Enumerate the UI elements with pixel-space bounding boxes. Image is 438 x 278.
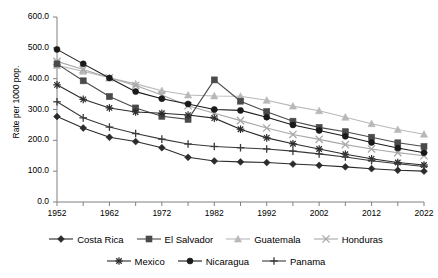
y-tick-label: 100.0 (9, 165, 49, 175)
data-point-square (421, 144, 427, 150)
data-point-plus (132, 130, 140, 138)
data-point-asterisk (53, 81, 61, 89)
data-point-x (263, 124, 270, 131)
data-point-diamond (394, 167, 401, 174)
y-tick-label: 200.0 (9, 134, 49, 144)
data-point-asterisk (263, 134, 271, 142)
legend-marker-asterisk-icon (106, 255, 132, 267)
data-point-circle (106, 75, 112, 81)
data-point-plus (106, 123, 114, 131)
x-tick-label: 1952 (37, 208, 77, 218)
legend-marker-diamond-icon (48, 233, 74, 245)
legend-label: Mexico (135, 256, 165, 267)
data-point-asterisk (237, 125, 245, 133)
x-tick-label: 1972 (142, 208, 182, 218)
data-point-square (211, 77, 217, 83)
data-point-plus (270, 257, 278, 265)
legend-item-panama[interactable]: Panama (261, 255, 325, 267)
data-point-asterisk (210, 114, 218, 122)
legend-row-2: MexicoNicaraguaPanama (0, 250, 431, 272)
data-point-asterisk (79, 96, 87, 104)
y-tick-label: 600.0 (9, 11, 49, 21)
data-point-square (264, 109, 270, 115)
legend-marker-triangle-icon (225, 233, 251, 245)
data-point-circle (211, 107, 217, 113)
data-point-plus (263, 145, 271, 153)
data-point-square (80, 78, 86, 84)
legend-marker-square-icon (136, 233, 162, 245)
data-point-diamond (158, 144, 165, 151)
data-point-circle (159, 96, 165, 102)
data-point-circle (290, 122, 296, 128)
x-tick-label: 1962 (89, 208, 129, 218)
data-point-diamond (106, 134, 113, 141)
data-point-diamond (185, 154, 192, 161)
data-point-asterisk (289, 140, 297, 148)
y-tick-label: 400.0 (9, 73, 49, 83)
data-point-circle (395, 145, 401, 151)
y-tick-label: 500.0 (9, 42, 49, 52)
data-point-circle (133, 89, 139, 95)
data-point-circle (54, 46, 60, 52)
data-point-plus (158, 135, 166, 143)
data-point-diamond (342, 163, 349, 170)
data-point-asterisk (184, 111, 192, 119)
legend-label: Panama (290, 256, 325, 267)
legend-item-guatemala[interactable]: Guatemala (225, 233, 300, 245)
data-point-circle (187, 258, 193, 264)
data-point-diamond (368, 165, 375, 172)
x-tick-label: 2002 (299, 208, 339, 218)
x-tick-label: 1992 (247, 208, 287, 218)
data-point-asterisk (106, 104, 114, 112)
legend-item-honduras[interactable]: Honduras (313, 233, 383, 245)
data-point-diamond (316, 162, 323, 169)
data-point-diamond (237, 159, 244, 166)
data-point-asterisk (158, 109, 166, 117)
data-point-square (238, 98, 244, 104)
data-point-circle (80, 61, 86, 67)
legend-item-costa-rica[interactable]: Costa Rica (48, 233, 123, 245)
data-point-square (146, 236, 152, 242)
x-tick-label: 1982 (194, 208, 234, 218)
data-point-x (237, 117, 244, 124)
legend-label: Honduras (342, 234, 383, 245)
data-point-diamond (211, 158, 218, 165)
data-point-circle (264, 114, 270, 120)
x-tick-label: 2022 (404, 208, 438, 218)
data-point-diamond (54, 113, 61, 120)
legend-row-1: Costa RicaEl SalvadorGuatemalaHonduras (0, 228, 431, 250)
legend-marker-plus-icon (261, 255, 287, 267)
legend-label: El Salvador (165, 234, 214, 245)
data-point-circle (342, 133, 348, 139)
chart-legend: Costa RicaEl SalvadorGuatemalaHonduras M… (0, 228, 431, 272)
legend-marker-x-icon (313, 233, 339, 245)
data-point-diamond (263, 159, 270, 166)
data-point-square (106, 94, 112, 100)
data-point-diamond (132, 138, 139, 145)
x-tick-label: 2012 (352, 208, 392, 218)
data-point-asterisk (132, 108, 140, 116)
data-point-circle (369, 139, 375, 145)
data-point-circle (421, 150, 427, 156)
data-point-circle (238, 107, 244, 113)
data-point-asterisk (115, 257, 123, 265)
y-tick-label: 0.0 (9, 196, 49, 206)
data-point-plus (289, 147, 297, 155)
data-point-plus (53, 98, 61, 106)
data-point-square (54, 61, 60, 67)
legend-label: Guatemala (254, 234, 300, 245)
data-point-circle (185, 101, 191, 107)
data-point-plus (79, 114, 87, 122)
y-tick-label: 300.0 (9, 104, 49, 114)
data-point-diamond (80, 125, 87, 132)
legend-label: Costa Rica (77, 234, 123, 245)
data-point-circle (316, 127, 322, 133)
legend-item-nicaragua[interactable]: Nicaragua (177, 255, 249, 267)
data-point-plus (210, 143, 218, 151)
data-point-plus (237, 144, 245, 152)
legend-label: Nicaragua (206, 256, 249, 267)
legend-item-el-salvador[interactable]: El Salvador (136, 233, 214, 245)
legend-item-mexico[interactable]: Mexico (106, 255, 165, 267)
data-point-plus (184, 140, 192, 148)
